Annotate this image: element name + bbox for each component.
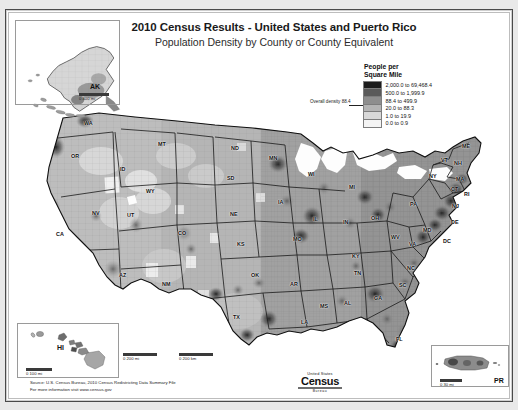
map-legend: People per Square Mile 2,000.0 to 69,468… (363, 63, 459, 127)
legend-row: 0.0 to 0.9 (363, 120, 459, 128)
state-label-tn: TN (354, 270, 361, 276)
scalebar-main-miles: 0 200 mi (123, 353, 157, 361)
state-label-ok: OK (251, 272, 259, 278)
inset-frame-puerto-rico (431, 345, 509, 387)
overall-density-annotation: Overall density 88.4 (310, 99, 351, 104)
state-label-sc: SC (399, 282, 407, 288)
screenshot-root: 2010 Census Results - United States and … (0, 0, 518, 410)
legend-label: 500.0 to 1,999.9 (386, 90, 425, 96)
page-title: 2010 Census Results - United States and … (109, 21, 439, 33)
state-label-wy: WY (146, 188, 155, 194)
state-label-oh: OH (371, 215, 379, 221)
state-label-de: DE (451, 219, 459, 225)
state-label-vt: VT (441, 157, 448, 163)
state-label-nj: NJ (452, 203, 459, 209)
logo-sub-text: Bureau (289, 389, 351, 393)
legend-label: 88.4 to 499.9 (386, 98, 417, 104)
state-label-ga: GA (374, 295, 382, 301)
state-label-wa: WA (84, 120, 93, 126)
legend-label: 1.0 to 19.9 (386, 113, 411, 119)
legend-class-list: 2,000.0 to 69,468.4500.0 to 1,999.988.4 … (363, 82, 459, 128)
state-label-ny: NY (429, 173, 437, 179)
state-label-il: IL (313, 216, 318, 222)
state-label-me: ME (462, 143, 470, 149)
state-label-al: AL (344, 300, 351, 306)
legend-title-line-2: Square Mile (364, 71, 459, 79)
state-label-mt: MT (158, 141, 166, 147)
scalebar-main-km: 0 200 km (179, 353, 213, 361)
state-label-nd: ND (231, 145, 239, 151)
state-label-ma: MA (456, 176, 464, 182)
logo-wordmark: Census (289, 376, 351, 386)
page-subtitle: Population Density by County or County E… (109, 36, 439, 48)
legend-label: 2,000.0 to 69,468.4 (386, 82, 432, 88)
state-label-ne: NE (230, 211, 238, 217)
state-label-nc: NC (407, 265, 415, 271)
state-label-va: VA (409, 241, 416, 247)
state-label-sd: SD (227, 175, 235, 181)
census-bureau-logo: United States Census Bureau (289, 372, 351, 393)
state-label-ia: IA (278, 199, 283, 205)
state-label-az: AZ (119, 272, 126, 278)
state-label-fl: FL (396, 336, 403, 342)
state-label-ms: MS (320, 303, 328, 309)
inset-frame-hawaii (17, 323, 119, 378)
state-label-ct: CT (451, 186, 458, 192)
state-label-mi: MI (349, 184, 355, 190)
state-label-wv: WV (391, 234, 400, 240)
state-label-ar: AR (290, 281, 298, 287)
source-note: Source: U.S. Census Bureau, 2010 Census … (30, 380, 176, 393)
state-label-ks: KS (237, 241, 245, 247)
state-label-or: OR (71, 153, 79, 159)
state-label-wi: WI (308, 171, 315, 177)
legend-title-line-1: People per (364, 63, 459, 71)
source-line-2: For more information visit www.census.go… (30, 387, 176, 394)
state-label-nm: NM (162, 281, 170, 287)
legend-swatch (363, 119, 382, 128)
legend-title: People per Square Mile (364, 63, 459, 79)
state-label-md: MD (423, 227, 431, 233)
state-label-mo: MO (293, 236, 302, 242)
state-label-nv: NV (92, 210, 100, 216)
legend-label: 0.0 to 0.9 (386, 120, 408, 126)
state-label-id: ID (120, 166, 125, 172)
map-sheet: 2010 Census Results - United States and … (5, 9, 513, 402)
state-label-co: CO (178, 230, 186, 236)
state-label-nh: NH (454, 160, 462, 166)
state-label-pa: PA (410, 201, 417, 207)
state-label-ut: UT (127, 212, 134, 218)
overall-density-leader-line (349, 105, 363, 106)
state-label-in: IN (343, 219, 348, 225)
inset-frame-alaska (15, 20, 120, 105)
source-line-1: Source: U.S. Census Bureau, 2010 Census … (30, 380, 176, 387)
state-label-dc: DC (443, 238, 451, 244)
state-label-ri: RI (464, 191, 469, 197)
state-label-tx: TX (233, 314, 240, 320)
state-label-la: LA (301, 319, 308, 325)
state-label-ca: CA (56, 231, 64, 237)
legend-label: 20.0 to 88.3 (386, 105, 414, 111)
state-label-ky: KY (352, 253, 360, 259)
state-label-mn: MN (269, 155, 277, 161)
